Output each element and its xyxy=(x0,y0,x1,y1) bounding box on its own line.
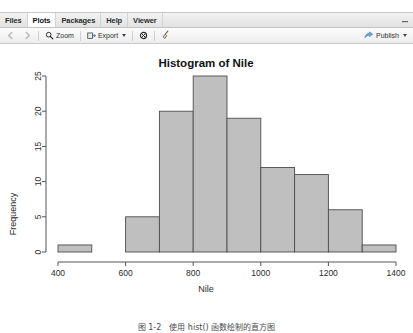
histogram-bar xyxy=(58,245,92,252)
x-axis-tick-label: 1400 xyxy=(387,268,406,278)
next-plot-button[interactable] xyxy=(20,29,35,42)
y-axis: 0510152025 xyxy=(33,71,46,254)
x-axis-tick-label: 800 xyxy=(186,268,200,278)
x-axis-tick-label: 1200 xyxy=(319,268,338,278)
figure-caption: 图 1‐2 使用 hist() 函数绘制的直方图 xyxy=(0,322,413,333)
toolbar-separator-3 xyxy=(132,31,133,41)
y-axis-tick-label: 10 xyxy=(33,177,43,187)
tab-files[interactable]: Files xyxy=(0,13,28,27)
y-axis-tick-label: 0 xyxy=(33,249,43,254)
tab-plots-label: Plots xyxy=(33,16,51,25)
y-axis-tick-label: 25 xyxy=(33,71,43,81)
figure-caption-text: 图 1‐2 使用 hist() 函数绘制的直方图 xyxy=(138,322,276,332)
magnifier-icon xyxy=(45,31,54,41)
tab-packages-label: Packages xyxy=(61,16,95,25)
y-axis-tick-label: 15 xyxy=(33,141,43,151)
histogram-bar xyxy=(295,175,329,252)
plot-canvas: Histogram of Nile Frequency Nile 0510152… xyxy=(0,44,413,330)
pane-tab-bar: Files Plots Packages Help Viewer xyxy=(0,13,413,28)
publish-icon xyxy=(364,31,374,41)
chevron-down-icon xyxy=(122,34,126,37)
x-axis-tick-label: 600 xyxy=(119,268,133,278)
export-button-label: Export xyxy=(98,32,118,39)
histogram-svg: Histogram of Nile Frequency Nile 0510152… xyxy=(0,44,413,330)
x-axis-tick-label: 400 xyxy=(51,268,65,278)
toolbar-separator-4 xyxy=(154,31,155,41)
remove-plot-icon xyxy=(139,31,148,41)
window-top-gap xyxy=(0,0,413,12)
tab-packages[interactable]: Packages xyxy=(56,13,101,27)
histogram-bar xyxy=(126,217,160,252)
histogram-bar xyxy=(362,245,396,252)
tab-viewer-label: Viewer xyxy=(133,16,156,25)
chart-title: Histogram of Nile xyxy=(158,57,253,69)
remove-plot-button[interactable] xyxy=(136,29,151,42)
publish-button-label: Publish xyxy=(376,32,399,39)
publish-chevron-down-icon xyxy=(403,34,407,37)
left-arrow-icon xyxy=(6,31,15,41)
tab-help[interactable]: Help xyxy=(101,13,128,27)
tab-viewer[interactable]: Viewer xyxy=(128,13,162,27)
broom-icon xyxy=(161,30,170,41)
histogram-bar xyxy=(159,111,193,252)
zoom-button[interactable]: Zoom xyxy=(42,29,77,42)
publish-button[interactable]: Publish xyxy=(361,29,410,42)
zoom-button-label: Zoom xyxy=(56,32,74,39)
tab-files-label: Files xyxy=(5,16,22,25)
histogram-bar xyxy=(193,76,227,252)
export-icon xyxy=(87,31,96,41)
x-axis-tick-label: 1000 xyxy=(251,268,270,278)
x-axis: 400600800100012001400 xyxy=(51,262,406,278)
tab-bar-filler xyxy=(163,13,397,27)
plots-toolbar: Zoom Export xyxy=(0,28,413,44)
bars-layer xyxy=(58,76,396,252)
histogram-bar xyxy=(227,118,261,252)
y-axis-tick-label: 20 xyxy=(33,106,43,116)
tab-plots[interactable]: Plots xyxy=(28,13,57,27)
toolbar-separator-2 xyxy=(80,31,81,41)
minimize-pane-icon[interactable] xyxy=(397,13,413,27)
histogram-bar xyxy=(261,168,295,252)
clear-all-plots-button[interactable] xyxy=(158,29,173,42)
previous-plot-button[interactable] xyxy=(3,29,18,42)
histogram-bar xyxy=(328,210,362,252)
right-arrow-icon xyxy=(23,31,32,41)
navigation-button-group xyxy=(3,29,35,42)
toolbar-separator-1 xyxy=(38,31,39,41)
y-axis-tick-label: 5 xyxy=(33,214,43,219)
tab-help-label: Help xyxy=(106,16,122,25)
export-button[interactable]: Export xyxy=(84,29,129,42)
y-axis-label: Frequency xyxy=(8,192,18,235)
x-axis-label: Nile xyxy=(198,284,214,294)
plots-pane: Files Plots Packages Help Viewer xyxy=(0,12,413,330)
